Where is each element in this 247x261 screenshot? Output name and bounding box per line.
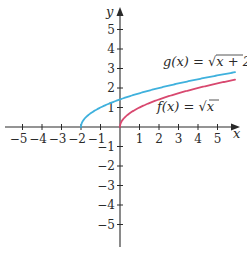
x-tick-label: −3 [49,132,67,146]
x-tick-label: −5 [10,132,28,146]
y-tick-label: −5 [97,218,115,232]
y-tick-label: −2 [97,159,115,173]
f-function-label: f(x) = √x [156,99,219,114]
y-tick-label: 5 [107,23,115,37]
g-function-label: g(x) = √x + 2 [163,54,247,69]
svg-text:g(x) = √x + 2: g(x) = √x + 2 [163,54,247,69]
x-tick-label: 1 [136,132,144,146]
y-tick-label: −3 [97,179,115,193]
y-tick-label: 2 [107,81,115,95]
x-tick-label: 2 [155,132,163,146]
labels: y x g(x) = √x + 2 f(x) = √x [105,4,247,141]
x-tick-label: 3 [175,132,183,146]
x-tick-label: −2 [68,132,86,146]
function-graph: −5−4−3−2−11234554321−1−2−3−4−5 y x g(x) … [0,0,247,261]
y-axis-label: y [105,4,114,19]
x-axis-label: x [233,126,241,141]
g-label-prefix: g(x) = [163,54,208,69]
x-tick-label: −4 [29,132,47,146]
axes: −5−4−3−2−11234554321−1−2−3−4−5 [5,7,240,247]
y-axis-arrow-icon [117,7,124,16]
f-label-prefix: f(x) = [156,99,198,114]
y-tick-label: −4 [97,198,115,212]
y-tick-label: 3 [107,62,115,76]
g-label-radicand: x + 2 [216,54,247,69]
svg-text:f(x) = √x: f(x) = √x [156,99,215,114]
y-tick-label: −1 [97,140,115,154]
x-tick-label: 4 [194,132,202,146]
f-label-radicand: x [207,99,215,114]
x-tick-label: 5 [214,132,222,146]
y-tick-label: 4 [107,42,115,56]
